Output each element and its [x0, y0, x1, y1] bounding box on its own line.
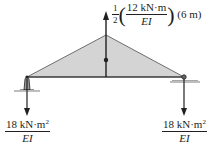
- moment-fraction: 12 kN·m EI: [126, 2, 167, 27]
- length-label: (6 m): [177, 8, 201, 20]
- right-reaction-label: 18 kN·m2 EI: [162, 119, 207, 144]
- arrow-head-down-icon: [24, 108, 30, 116]
- resultant-label: 1 2 ( 12 kN·m EI ) (6 m): [112, 2, 201, 27]
- centroid-dot: [104, 58, 108, 62]
- left-reaction-label: 18 kN·m2 EI: [5, 119, 50, 144]
- arrow-head-up-icon: [103, 11, 109, 20]
- arrow-head-down-icon: [181, 108, 187, 116]
